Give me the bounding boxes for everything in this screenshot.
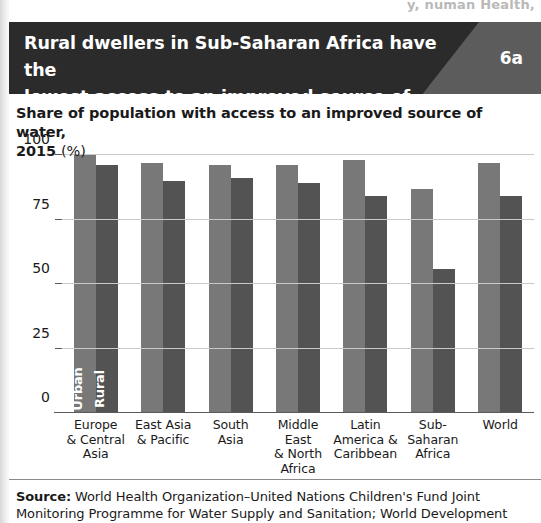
x-axis-label: Europe& CentralAsia	[62, 418, 129, 476]
y-axis-tick-label: 75	[32, 196, 50, 212]
subtitle-unit: (%)	[61, 143, 86, 159]
x-axis-label-line: Middle East	[264, 418, 331, 447]
x-axis-label: SouthAsia	[197, 418, 264, 476]
bar-group	[129, 155, 196, 413]
bar-group	[197, 155, 264, 413]
y-axis-tick-mark	[55, 412, 62, 413]
x-axis-label-line: Asia	[197, 433, 264, 448]
x-axis-label-line: & North	[264, 447, 331, 462]
legend-label-urban: Urban	[70, 367, 85, 410]
subtitle-text: Share of population with access to an im…	[16, 105, 482, 140]
x-axis-label-line: World	[467, 418, 534, 433]
bar-urban	[276, 165, 298, 413]
bar-rural	[433, 269, 455, 413]
bar-urban	[343, 160, 365, 413]
bar-group	[332, 155, 399, 413]
title-line-1: Rural dwellers in Sub-Saharan Africa hav…	[24, 30, 454, 84]
x-axis-label-line: Europe	[62, 418, 129, 433]
x-axis-label-line: & Pacific	[129, 433, 196, 448]
cut-off-header-text: y, numan Health,	[0, 0, 541, 14]
gridline	[62, 219, 534, 220]
figure-number-badge: 6a	[500, 22, 523, 94]
bar-chart: UrbanRural 0255075100 Europe& CentralAsi…	[9, 150, 541, 420]
source-line-2: Monitoring Programme for Water Supply an…	[16, 506, 507, 521]
title-line-2: lowest access to an improved source of w…	[24, 84, 454, 94]
bar-rural	[365, 196, 387, 413]
y-axis-tick-label: 50	[32, 260, 50, 276]
x-axis-labels: Europe& CentralAsiaEast Asia& PacificSou…	[62, 418, 534, 476]
x-axis-label-line: Asia	[62, 447, 129, 462]
source-note: Source: World Health Organization–United…	[16, 488, 536, 522]
x-axis-label-line: & Central	[62, 433, 129, 448]
source-label: Source:	[16, 489, 71, 504]
bar-urban	[209, 165, 231, 413]
bar-rural: Rural	[96, 165, 118, 413]
x-axis-label: Middle East& NorthAfrica	[264, 418, 331, 476]
x-axis-label-line: Africa	[399, 447, 466, 462]
source-divider	[9, 479, 541, 480]
subtitle-year: 2015	[16, 143, 61, 159]
source-line-1: World Health Organization–United Nations…	[71, 489, 480, 504]
gridline	[62, 348, 534, 349]
x-axis-label: East Asia& Pacific	[129, 418, 196, 476]
x-axis-label-line: Sub-Saharan	[399, 418, 466, 447]
y-axis-tick-label: 0	[41, 389, 50, 405]
x-axis-label-line: Latin	[332, 418, 399, 433]
bar-urban	[478, 163, 500, 413]
figure-page: y, numan Health, Rural dwellers in Sub-S…	[0, 0, 541, 523]
x-axis-label-line: America &	[332, 433, 399, 448]
bar-group	[467, 155, 534, 413]
bar-rural	[500, 196, 522, 413]
x-axis-label: World	[467, 418, 534, 476]
x-axis-label-line: Africa	[264, 462, 331, 477]
bar-group	[264, 155, 331, 413]
page-title: Rural dwellers in Sub-Saharan Africa hav…	[24, 30, 454, 94]
y-axis-tick-mark	[55, 348, 62, 349]
y-axis-tick-mark	[55, 283, 62, 284]
x-axis-label-line: Caribbean	[332, 447, 399, 462]
plot-area: UrbanRural 0255075100	[62, 155, 534, 413]
bar-urban	[411, 189, 433, 413]
x-axis-label-line: South	[197, 418, 264, 433]
chart-subtitle: Share of population with access to an im…	[16, 104, 486, 161]
gridline	[62, 283, 534, 284]
legend-label-rural: Rural	[92, 370, 107, 408]
bar-group: UrbanRural	[62, 155, 129, 413]
y-axis-tick-mark	[55, 219, 62, 220]
x-axis-label: LatinAmerica &Caribbean	[332, 418, 399, 476]
bar-urban	[141, 163, 163, 413]
x-axis-label-line: East Asia	[129, 418, 196, 433]
bar-rural	[231, 178, 253, 413]
bar-rural	[163, 181, 185, 413]
figure-title-bar: Rural dwellers in Sub-Saharan Africa hav…	[9, 22, 541, 94]
bar-group	[399, 155, 466, 413]
x-axis-label: Sub-SaharanAfrica	[399, 418, 466, 476]
bar-groups: UrbanRural	[62, 155, 534, 413]
axis-baseline	[54, 412, 534, 413]
y-axis-tick-label: 25	[32, 325, 50, 341]
page-scan-edge	[0, 0, 9, 523]
